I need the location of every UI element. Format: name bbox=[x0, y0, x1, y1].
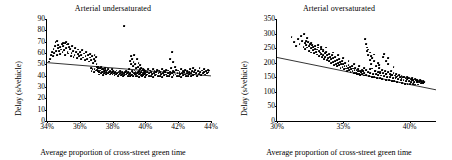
y-tick-label: 80 bbox=[38, 27, 46, 35]
data-point bbox=[57, 47, 59, 49]
data-point bbox=[382, 57, 384, 59]
data-point bbox=[377, 71, 379, 73]
data-point bbox=[62, 42, 64, 44]
x-axis-label: Average proportion of cross-street green… bbox=[0, 148, 226, 157]
data-point bbox=[310, 42, 312, 44]
data-point bbox=[139, 76, 141, 78]
y-tick-label: 350 bbox=[264, 15, 275, 23]
data-point bbox=[405, 80, 407, 82]
data-point bbox=[59, 53, 61, 55]
data-point bbox=[55, 50, 57, 52]
data-point bbox=[159, 75, 161, 77]
data-point bbox=[397, 78, 399, 80]
data-point bbox=[324, 52, 326, 54]
x-tick-label: 40% bbox=[403, 123, 417, 131]
data-point bbox=[338, 58, 340, 60]
data-point bbox=[400, 79, 402, 81]
data-point bbox=[367, 71, 369, 73]
data-point bbox=[399, 82, 401, 84]
data-point bbox=[367, 49, 369, 51]
data-point bbox=[364, 38, 366, 40]
data-point bbox=[62, 45, 64, 47]
data-point bbox=[373, 76, 375, 78]
data-point bbox=[313, 52, 315, 54]
data-point bbox=[56, 40, 58, 42]
data-point bbox=[85, 51, 87, 53]
data-point bbox=[392, 77, 394, 79]
data-point bbox=[387, 57, 389, 59]
data-point bbox=[137, 66, 139, 68]
data-point bbox=[368, 75, 370, 77]
data-point bbox=[382, 72, 384, 74]
data-point bbox=[380, 75, 382, 77]
data-point bbox=[386, 76, 388, 78]
data-point bbox=[293, 41, 295, 43]
data-point bbox=[196, 75, 198, 77]
data-point bbox=[208, 70, 210, 72]
data-point bbox=[150, 75, 152, 77]
x-tick-mark bbox=[211, 121, 212, 123]
data-point bbox=[374, 70, 376, 72]
data-point bbox=[395, 77, 397, 79]
data-point bbox=[88, 61, 90, 63]
data-point bbox=[369, 68, 371, 70]
data-point bbox=[81, 49, 83, 51]
y-axis-label: Delay (s/vehicle) bbox=[240, 61, 249, 116]
data-point bbox=[365, 43, 367, 45]
data-point bbox=[152, 76, 154, 78]
data-point bbox=[379, 77, 381, 79]
data-point bbox=[373, 54, 375, 56]
data-point bbox=[83, 53, 85, 55]
data-point bbox=[133, 54, 135, 56]
data-point bbox=[291, 36, 293, 38]
data-point bbox=[104, 67, 106, 69]
y-tick-label: 90 bbox=[38, 15, 46, 23]
data-point bbox=[409, 83, 411, 85]
data-point bbox=[371, 76, 373, 78]
data-point bbox=[168, 75, 170, 77]
data-point bbox=[95, 56, 97, 58]
data-point bbox=[328, 53, 330, 55]
data-point bbox=[164, 71, 166, 73]
y-tick-label: 40 bbox=[38, 72, 46, 80]
data-point bbox=[332, 52, 334, 54]
data-point bbox=[406, 78, 408, 80]
x-tick-mark bbox=[113, 121, 114, 123]
data-point bbox=[146, 71, 148, 73]
panel-arterial-oversaturated: Arterial oversaturated Delay (s/vehicle)… bbox=[226, 0, 452, 160]
data-point bbox=[310, 52, 312, 54]
data-point bbox=[204, 74, 206, 76]
x-tick-mark bbox=[343, 121, 344, 123]
data-point bbox=[341, 60, 343, 62]
data-point bbox=[353, 63, 355, 65]
y-tick-label: 150 bbox=[264, 74, 275, 82]
x-tick-label: 35% bbox=[336, 123, 350, 131]
data-point bbox=[404, 83, 406, 85]
data-point bbox=[342, 57, 344, 59]
data-point bbox=[375, 73, 377, 75]
data-point bbox=[183, 71, 185, 73]
data-point bbox=[178, 75, 180, 77]
data-point bbox=[100, 66, 102, 68]
data-point bbox=[123, 25, 125, 27]
data-point bbox=[322, 49, 324, 51]
data-point bbox=[136, 58, 138, 60]
data-point bbox=[317, 47, 319, 49]
data-point bbox=[325, 47, 327, 49]
y-tick-label: 250 bbox=[264, 44, 275, 52]
data-point bbox=[102, 74, 104, 76]
data-point bbox=[76, 57, 78, 59]
data-point bbox=[171, 76, 173, 78]
data-point bbox=[363, 75, 365, 77]
data-point bbox=[376, 77, 378, 79]
data-point bbox=[303, 33, 305, 35]
data-point bbox=[79, 51, 81, 53]
data-point bbox=[49, 61, 51, 63]
data-point bbox=[129, 60, 131, 62]
data-point bbox=[307, 47, 309, 49]
data-point bbox=[378, 67, 380, 69]
data-point bbox=[305, 40, 307, 42]
data-point bbox=[416, 80, 418, 82]
x-axis-label: Average proportion of cross-street green… bbox=[226, 148, 452, 157]
x-tick-label: 36% bbox=[73, 123, 87, 131]
